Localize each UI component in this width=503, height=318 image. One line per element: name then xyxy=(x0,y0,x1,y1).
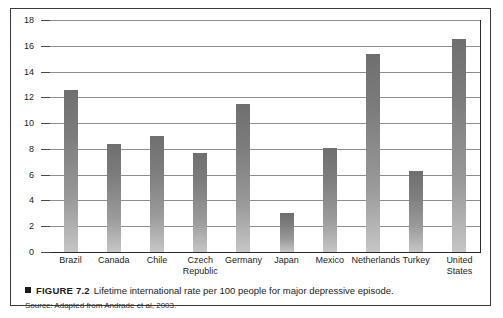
source-line: Source: Adapted from Andrade et al, 2003… xyxy=(25,301,478,311)
bar xyxy=(193,153,207,252)
x-axis-category-label: Chile xyxy=(135,255,178,266)
x-axis-category-label: Brazil xyxy=(49,255,92,266)
figure-label: FIGURE 7.2 xyxy=(36,285,90,296)
x-axis-labels: BrazilCanadaChileCzech RepublicGermanyJa… xyxy=(49,255,481,281)
x-axis-category-label: Turkey xyxy=(395,255,438,266)
x-axis-category-label: Japan xyxy=(265,255,308,266)
bar-slot xyxy=(222,20,265,252)
caption-text: Lifetime international rate per 100 peop… xyxy=(94,285,394,296)
bar xyxy=(452,39,466,252)
bar-slot xyxy=(438,20,481,252)
x-axis-category-label: Germany xyxy=(222,255,265,266)
square-bullet-icon xyxy=(25,287,31,293)
gridline xyxy=(49,252,481,253)
x-axis-category-label: Mexico xyxy=(308,255,351,266)
y-axis-tick-label: 16 xyxy=(24,41,34,50)
figure-container: 024681012141618 BrazilCanadaChileCzech R… xyxy=(10,8,491,306)
bar-slot xyxy=(308,20,351,252)
bar xyxy=(236,104,250,252)
bars-group xyxy=(49,20,481,252)
x-axis-category-label: Netherlands xyxy=(351,255,394,266)
y-axis-tick-label: 10 xyxy=(24,119,34,128)
caption-block: FIGURE 7.2Lifetime international rate pe… xyxy=(25,285,478,311)
bar xyxy=(280,213,294,252)
y-axis-tick-label: 4 xyxy=(29,196,34,205)
bar xyxy=(150,136,164,252)
chart-plot-area xyxy=(37,20,481,252)
bar-slot xyxy=(265,20,308,252)
bar-slot xyxy=(395,20,438,252)
bar xyxy=(107,144,121,252)
x-axis-category-label: Canada xyxy=(92,255,135,266)
y-axis-tick-label: 12 xyxy=(24,93,34,102)
bar-slot xyxy=(179,20,222,252)
bar xyxy=(323,148,337,252)
bar-slot xyxy=(351,20,394,252)
y-axis-tick-label: 2 xyxy=(29,222,34,231)
bar xyxy=(64,90,78,252)
y-axis-tick-label: 14 xyxy=(24,67,34,76)
y-axis-tick-label: 0 xyxy=(29,248,34,257)
y-axis-tick-label: 6 xyxy=(29,170,34,179)
caption-line: FIGURE 7.2Lifetime international rate pe… xyxy=(25,285,478,297)
bar xyxy=(366,54,380,252)
y-axis-tick-label: 8 xyxy=(29,144,34,153)
bar-slot xyxy=(49,20,92,252)
y-axis-tick-label: 18 xyxy=(24,16,34,25)
y-axis-tick xyxy=(41,252,50,253)
bar-slot xyxy=(92,20,135,252)
x-axis-category-label: Czech Republic xyxy=(179,255,222,277)
bar xyxy=(409,171,423,252)
bar-slot xyxy=(135,20,178,252)
x-axis-category-label: United States xyxy=(438,255,481,277)
